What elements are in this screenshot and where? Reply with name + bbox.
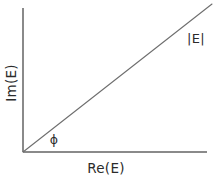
field-vector-line [23, 4, 212, 152]
complex-plane-phasor-diagram: Im(E) Re(E) |E| ϕ [0, 0, 214, 183]
phase-angle-label: ϕ [50, 134, 59, 147]
diagram-canvas [0, 0, 214, 183]
real-axis-label: Re(E) [87, 162, 125, 176]
imaginary-axis-label: Im(E) [5, 64, 19, 102]
magnitude-label: |E| [187, 32, 205, 45]
